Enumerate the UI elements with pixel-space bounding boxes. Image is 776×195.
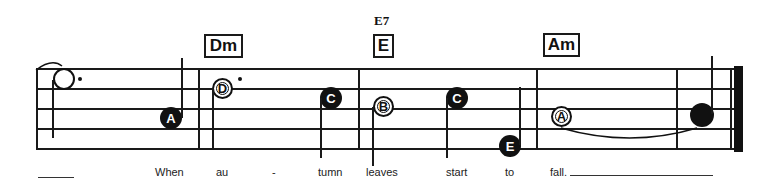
final-thick-barline — [734, 66, 743, 152]
chord-e7-label: E7 — [374, 13, 389, 29]
staff-line-5 — [36, 148, 742, 150]
note-6-stem — [446, 98, 448, 158]
lyric-start: start — [446, 166, 467, 178]
final-thin-barline — [730, 68, 732, 150]
note-1-stem — [52, 80, 54, 138]
note-b: B — [373, 96, 394, 117]
chord-am-label: Am — [548, 35, 575, 55]
lyric-au: au — [216, 166, 228, 178]
lyric-fall: fall. — [550, 166, 567, 178]
barline-1 — [198, 68, 200, 150]
note-e: E — [499, 135, 521, 157]
lyric-to: to — [505, 166, 514, 178]
chord-e-label: E — [378, 36, 389, 56]
note-3-dot — [238, 77, 242, 81]
chord-dm-label: Dm — [210, 36, 237, 56]
lyric-leaves: leaves — [366, 166, 398, 178]
staff-line-1 — [36, 68, 742, 70]
note-9-stem — [711, 56, 713, 114]
note-7-stem — [519, 87, 521, 145]
lyric-hyphen: - — [272, 166, 276, 178]
note-half-dotted — [53, 68, 75, 90]
note-4-stem — [320, 98, 322, 158]
note-a-1: A — [160, 107, 182, 129]
lyric-when: When — [155, 166, 184, 178]
chord-dm: Dm — [204, 34, 243, 58]
chord-e: E — [373, 34, 394, 58]
lyric-leading-line — [38, 177, 74, 178]
note-c-2: C — [446, 87, 468, 109]
lyric-extender-line — [570, 175, 713, 176]
note-d: D — [212, 78, 233, 99]
note-2-stem — [181, 58, 183, 118]
chord-am: Am — [543, 33, 580, 57]
staff-line-2 — [36, 88, 742, 90]
barline-3 — [536, 68, 538, 150]
tie-arc-end — [555, 122, 705, 144]
lyric-tumn: tumn — [318, 166, 342, 178]
note-1-dot — [78, 77, 82, 81]
note-5-stem — [372, 107, 374, 166]
barline-2 — [358, 68, 360, 150]
note-3-stem — [212, 88, 214, 150]
note-c-1: C — [320, 87, 342, 109]
barline-start — [36, 68, 38, 150]
